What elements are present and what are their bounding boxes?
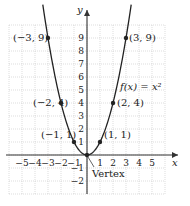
y-tick-label: 1 bbox=[78, 137, 84, 147]
y-axis-arrow bbox=[84, 10, 90, 16]
x-tick-label: 1 bbox=[97, 158, 103, 168]
y-tick-label: 4 bbox=[78, 98, 84, 108]
data-point bbox=[72, 140, 76, 144]
point-label: (1, 1) bbox=[104, 129, 131, 140]
data-point bbox=[98, 140, 102, 144]
y-axis-label: y bbox=[76, 4, 83, 15]
x-tick-label: −2 bbox=[54, 158, 67, 168]
x-tick-label: −4 bbox=[28, 158, 42, 168]
y-tick-label: −1 bbox=[71, 163, 84, 173]
x-tick-label: −5 bbox=[15, 158, 29, 168]
y-tick-label: 2 bbox=[78, 124, 84, 134]
point-label: (3, 9) bbox=[129, 32, 156, 43]
x-tick-label: −3 bbox=[41, 158, 55, 168]
data-point bbox=[85, 153, 89, 157]
data-point bbox=[111, 101, 115, 105]
y-tick-label: 5 bbox=[78, 85, 84, 95]
point-label: (2, 4) bbox=[117, 97, 144, 108]
tick-labels: −5−4−3−2−112345−2−1123456789 bbox=[15, 33, 155, 186]
parabola-chart: −5−4−3−2−112345−2−1123456789 (−3, 9)(−2,… bbox=[0, 0, 190, 206]
y-tick-label: 3 bbox=[78, 111, 84, 121]
point-label: (−2, 4) bbox=[33, 97, 68, 108]
y-tick-label: −2 bbox=[71, 176, 84, 186]
point-label: (−1, 1) bbox=[41, 129, 76, 140]
x-tick-label: 2 bbox=[110, 158, 116, 168]
x-axis-label: x bbox=[172, 157, 178, 168]
vertex-label: Vertex bbox=[91, 168, 125, 179]
x-tick-label: 3 bbox=[123, 158, 129, 168]
point-label: (−3, 9) bbox=[13, 32, 48, 43]
y-tick-label: 7 bbox=[78, 59, 84, 69]
x-tick-label: 5 bbox=[149, 158, 155, 168]
y-tick-label: 9 bbox=[78, 33, 84, 43]
y-tick-label: 6 bbox=[78, 72, 84, 82]
data-point bbox=[124, 36, 128, 40]
y-tick-label: 8 bbox=[78, 46, 84, 56]
vertex-pointer bbox=[88, 157, 94, 167]
x-tick-label: 4 bbox=[136, 158, 142, 168]
function-label: f(x) = x² bbox=[119, 81, 162, 92]
